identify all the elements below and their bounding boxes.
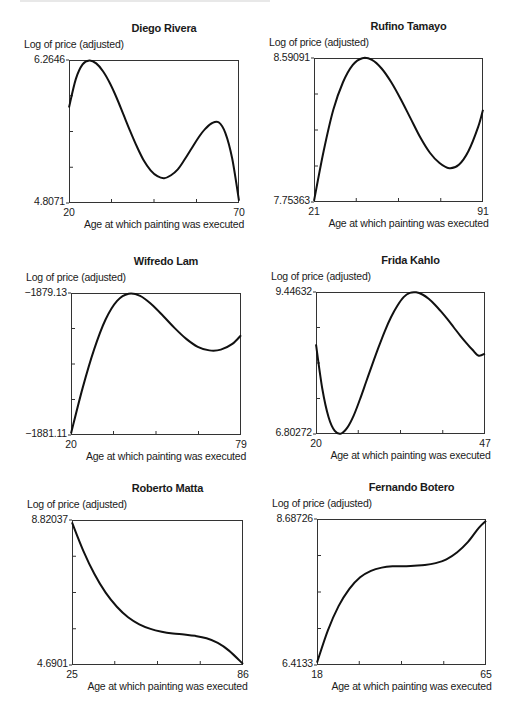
chart-title: Roberto Matta bbox=[132, 482, 203, 494]
x-tick-label-max: 79 bbox=[235, 438, 246, 450]
x-axis-label: Age at which painting was executed bbox=[331, 680, 491, 692]
y-axis-label: Log of price (adjusted) bbox=[24, 38, 124, 50]
price-curve bbox=[71, 293, 241, 433]
x-tick-label-max: 86 bbox=[237, 668, 248, 680]
price-curve bbox=[69, 60, 239, 200]
cropped-text-line bbox=[20, 0, 270, 2]
plot-area bbox=[316, 292, 485, 434]
price-curve bbox=[314, 58, 483, 201]
plot-area bbox=[314, 58, 483, 202]
y-tick-label-max: 8.59091 bbox=[273, 51, 310, 63]
price-curve bbox=[72, 522, 243, 663]
chart-title: Wifredo Lam bbox=[134, 255, 198, 267]
x-axis-label: Age at which painting was executed bbox=[330, 449, 490, 461]
x-axis-label: Age at which painting was executed bbox=[86, 450, 246, 462]
x-tick-label-max: 47 bbox=[479, 437, 490, 449]
y-tick-label-max: 8.68726 bbox=[276, 512, 313, 524]
y-tick-label-min: −1881.11 bbox=[25, 427, 67, 439]
y-tick-label-min: 6.80272 bbox=[275, 426, 312, 438]
price-curve bbox=[316, 292, 485, 434]
y-tick-label-min: 4.8071 bbox=[34, 195, 65, 207]
plot-frame bbox=[318, 520, 486, 665]
x-axis-label: Age at which painting was executed bbox=[328, 217, 488, 229]
x-tick-label-min: 21 bbox=[308, 205, 319, 217]
x-tick-label-max: 65 bbox=[480, 668, 491, 680]
plot-area bbox=[317, 519, 486, 665]
plot-area bbox=[69, 60, 239, 203]
chart-title: Fernando Botero bbox=[369, 481, 455, 493]
chart-title: Rufino Tamayo bbox=[370, 20, 446, 32]
x-tick-label-min: 20 bbox=[65, 438, 76, 450]
x-tick-label-min: 20 bbox=[63, 206, 74, 218]
y-tick-label-min: 7.75363 bbox=[273, 194, 310, 206]
plot-frame bbox=[315, 59, 483, 202]
chart-title: Frida Kahlo bbox=[381, 254, 439, 266]
x-tick-label-min: 20 bbox=[310, 437, 321, 449]
price-curve bbox=[317, 521, 486, 663]
x-tick-label-max: 70 bbox=[233, 206, 244, 218]
y-tick-label-min: 4.6901 bbox=[37, 657, 68, 669]
plot-area bbox=[71, 293, 241, 435]
x-tick-label-min: 18 bbox=[311, 668, 322, 680]
plot-frame bbox=[70, 61, 239, 203]
y-tick-label-max: 9.44632 bbox=[275, 285, 312, 297]
y-axis-label: Log of price (adjusted) bbox=[269, 36, 369, 48]
y-axis-label: Log of price (adjusted) bbox=[272, 497, 372, 509]
chart-title: Diego Rivera bbox=[132, 22, 197, 34]
y-axis-label: Log of price (adjusted) bbox=[27, 498, 127, 510]
x-tick-label-max: 91 bbox=[477, 205, 488, 217]
y-tick-label-max: 8.82037 bbox=[31, 513, 68, 525]
plot-area bbox=[72, 520, 243, 665]
y-axis-label: Log of price (adjusted) bbox=[26, 271, 126, 283]
plot-frame bbox=[317, 293, 485, 434]
y-tick-label-max: 6.2646 bbox=[34, 53, 65, 65]
y-tick-label-min: 6.4133 bbox=[282, 657, 313, 669]
x-tick-label-min: 25 bbox=[66, 668, 77, 680]
y-axis-label: Log of price (adjusted) bbox=[271, 270, 371, 282]
x-axis-label: Age at which painting was executed bbox=[87, 680, 247, 692]
y-tick-label-max: −1879.13 bbox=[25, 286, 68, 298]
plot-frame bbox=[72, 294, 241, 435]
x-axis-label: Age at which painting was executed bbox=[84, 218, 244, 230]
